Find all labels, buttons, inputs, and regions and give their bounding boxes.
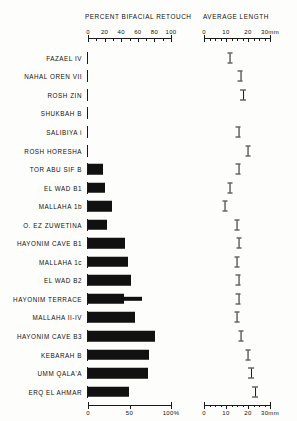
error-bar-cap [236,136,241,137]
error-bar-stem [230,53,231,62]
error-bar-cap [240,99,246,100]
axis-tick-minor [215,405,216,408]
axis-tick-minor [232,38,233,41]
axis-tick [248,38,249,42]
error-bar-cap [246,155,251,156]
error-bar-average-length [240,89,246,100]
error-bar-cap [240,89,246,90]
error-bar-cap [235,229,240,230]
axis-tick-label: 20 [101,29,108,35]
error-bar-average-length [227,182,232,193]
error-bar-average-length [236,126,241,137]
row-label-hayonim-cave-b3: HAYONIM CAVE B3 [17,333,82,340]
axis-end-cap [270,402,271,405]
axis-end-cap [171,402,172,405]
chart-row: EL WAD B1 [0,178,297,197]
axis-tick-label: 100% [163,410,180,416]
axis-tick-minor [265,405,266,408]
axis-tick-minor [210,405,211,408]
chart-row: O. EZ ZUWETINA [0,215,297,234]
axis-top-length: 0102030mm [204,38,270,48]
row-label-tor-abu-sif-b: TOR ABU SIF B [30,166,82,173]
bar-percent-retouch [88,257,128,268]
axis-tick [154,38,155,42]
row-label-mallaha-ii-iv: MALLAHA II-IV [33,314,83,321]
chart-row: HAYONIM CAVE B3 [0,327,297,346]
axis-tick-label: 50 [126,410,133,416]
bar-percent-retouch [88,238,125,249]
error-bar-cap [227,52,232,53]
axis-bottom-length: 0102030mm [204,405,270,415]
error-bar-cap [222,211,227,212]
right-panel-title: AVERAGE LENGTH [203,13,269,20]
axis-end-cap [88,35,89,38]
bar-percent-retouch [88,201,112,212]
baseline-marker [87,70,88,82]
axis-tick [204,38,205,42]
error-bar-cap [248,368,254,369]
axis-tick-label: 20 [244,29,251,35]
row-label-umm-qala-a: UMM QALA'A [38,370,83,377]
error-bar-cap [248,378,254,379]
error-bar-average-length [235,219,240,230]
error-bar-cap [235,219,240,220]
error-bar-cap [235,322,240,323]
error-bar-cap [236,164,241,165]
error-bar-average-length [238,71,243,82]
error-bar-stem [238,127,239,136]
axis-tick [130,405,131,409]
error-bar-stem [248,146,249,155]
error-bar-cap [236,174,241,175]
error-bar-cap [238,341,243,342]
row-label-shukbah-b: SHUKBAH B [41,110,82,117]
row-label-hayonim-terrace: HAYONIM TERRACE [13,295,82,302]
row-label-kebarah-b: KEBARAH B [41,351,82,358]
axis-end-cap [204,35,205,38]
chart-row: UMM QALA'A [0,364,297,383]
axis-top-percent: 020406080100 [88,38,171,48]
axis-tick [226,405,227,409]
bar-percent-retouch [88,349,149,360]
axis-tick-minor [96,38,97,41]
axis-tick [171,38,172,42]
bar-percent-retouch [88,164,103,175]
error-bar-stem [248,350,249,359]
chart-row: HAYONIM CAVE B1 [0,234,297,253]
axis-end-cap [204,402,205,405]
chart-row: SHUKBAH B [0,104,297,123]
error-bar-cap [237,238,242,239]
error-bar-cap [252,396,258,397]
row-label-el-wad-b1: EL WAD B1 [44,184,82,191]
axis-tick [88,405,89,409]
axis-tick-minor [146,38,147,41]
axis-tick-label: 60 [134,29,141,35]
chart-row: MALLAHA 1c [0,253,297,272]
row-label-el-wad-b2: EL WAD B2 [44,277,82,284]
figure-panel: PERCENT BIFACIAL RETOUCH AVERAGE LENGTH … [0,0,297,421]
axis-tick-label: 10 [222,410,229,416]
axis-tick-label: 30mm [261,410,279,416]
error-bar-stem [237,220,238,229]
chart-row: FAZAEL IV [0,49,297,68]
axis-tick [270,38,271,42]
error-bar-stem [238,165,239,174]
error-bar-cap [222,201,227,202]
axis-tick-minor [265,38,266,41]
left-panel-title: PERCENT BIFACIAL RETOUCH [85,13,191,20]
error-bar-stem [255,387,256,396]
axis-tick-minor [163,38,164,41]
baseline-marker [87,89,88,101]
axis-tick [138,38,139,42]
error-bar-stem [237,257,238,266]
error-bar-stem [239,239,240,248]
error-bar-average-length [236,164,241,175]
row-label-rosh-zin: ROSH ZIN [48,91,83,98]
bar-percent-retouch [88,219,107,230]
chart-row: KEBARAH B [0,345,297,364]
axis-tick-minor [237,38,238,41]
error-bar-average-length [248,368,254,379]
error-bar-stem [225,202,226,211]
error-bar-cap [227,192,232,193]
row-label-erq-el-ahmar: ERQ EL AHMAR [28,388,82,395]
axis-tick-minor [113,38,114,41]
